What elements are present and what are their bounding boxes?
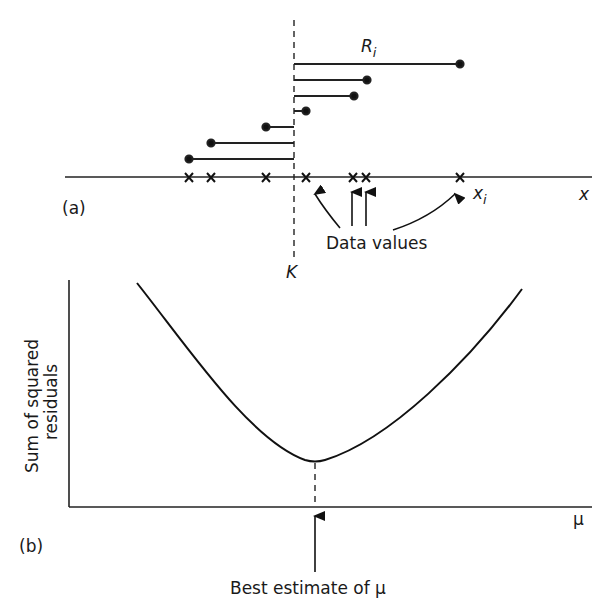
- data-values-annotation: Data values: [326, 233, 427, 253]
- data-value-arrows: [315, 192, 455, 230]
- r-i-label: Ri: [361, 36, 377, 60]
- best-estimate-annotation: Best estimate of μ: [230, 578, 386, 598]
- arrow-icon: [393, 194, 455, 230]
- x-i-label: xi: [472, 183, 487, 207]
- mu-axis-label: μ: [573, 509, 584, 529]
- y-axis-label-line1: Sum of squared: [22, 339, 42, 473]
- panel-b: Sum of squared residuals μ (b) Best esti…: [19, 280, 592, 598]
- residual-bars: [185, 60, 463, 162]
- arrow-icon: [315, 194, 340, 228]
- sum-of-squares-curve: [137, 283, 522, 462]
- panel-a-label: (a): [62, 198, 86, 218]
- panel-b-label: (b): [19, 536, 43, 556]
- figure: (a) x K Ri xi Data values Sum of squared…: [0, 0, 614, 603]
- panel-a: (a) x K Ri xi Data values: [62, 20, 592, 282]
- y-axis-label-line2: residuals: [41, 364, 61, 440]
- k-label: K: [286, 262, 299, 282]
- x-axis-label: x: [578, 184, 590, 204]
